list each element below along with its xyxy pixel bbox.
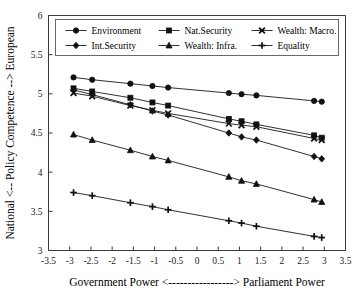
data-point <box>150 100 155 105</box>
x-tick-label: -3 <box>66 256 74 266</box>
y-tick-label: 5.5 <box>31 50 43 60</box>
data-point <box>254 93 259 98</box>
x-tick-label: 2 <box>279 256 284 266</box>
data-point <box>71 75 76 80</box>
x-tick-label: -0.5 <box>168 256 183 266</box>
legend-label: Equality <box>278 41 310 51</box>
policy-competence-line-chart: 33.544.555.56 -3.5-3-2.5-2-1.5-1-0.500.5… <box>0 0 362 298</box>
data-point <box>90 77 95 82</box>
x-tick-label: -2 <box>108 256 116 266</box>
x-tick-label: -2.5 <box>83 256 98 266</box>
chart-figure: 33.544.555.56 -3.5-3-2.5-2-1.5-1-0.500.5… <box>0 0 362 298</box>
y-tick-label: 6 <box>38 11 43 21</box>
data-point <box>226 116 231 121</box>
data-point <box>239 92 244 97</box>
data-point <box>128 81 133 86</box>
y-tick-label: 5 <box>38 89 43 99</box>
legend-label: Wealth: Infra. <box>185 41 238 51</box>
y-tick-label: 3 <box>38 246 43 256</box>
x-tick-label: 0 <box>195 256 200 266</box>
data-point <box>166 103 171 108</box>
x-tick-label: 1.5 <box>255 256 267 266</box>
data-point <box>319 99 324 104</box>
y-tick-label: 3.5 <box>31 207 43 217</box>
y-tick-label: 4 <box>38 168 43 178</box>
legend-sample-marker <box>167 28 172 33</box>
x-tick-label: -1.5 <box>126 256 141 266</box>
data-point <box>165 85 170 90</box>
x-tick-label: -3.5 <box>41 256 56 266</box>
x-tick-label: 3 <box>322 256 327 266</box>
y-axis-title: National <-- Policy Competence --> Europ… <box>4 26 17 239</box>
legend-label: Int.Security <box>92 41 137 51</box>
x-tick-label: 1 <box>237 256 242 266</box>
x-tick-label: 3.5 <box>340 256 352 266</box>
data-point <box>150 83 155 88</box>
x-axis-title: Government Power <-----------------> Par… <box>69 276 325 288</box>
y-tick-label: 4.5 <box>31 128 43 138</box>
x-tick-label: 2.5 <box>297 256 309 266</box>
data-point <box>226 90 231 95</box>
legend-sample-marker <box>73 28 78 33</box>
legend-label: Wealth: Macro. <box>278 26 337 36</box>
x-tick-label: 0.5 <box>212 256 224 266</box>
legend-label: Environment <box>92 26 142 36</box>
legend-label: Nat.Security <box>185 26 233 36</box>
x-tick-label: -1 <box>151 256 159 266</box>
data-point <box>128 95 133 100</box>
data-point <box>311 98 316 103</box>
